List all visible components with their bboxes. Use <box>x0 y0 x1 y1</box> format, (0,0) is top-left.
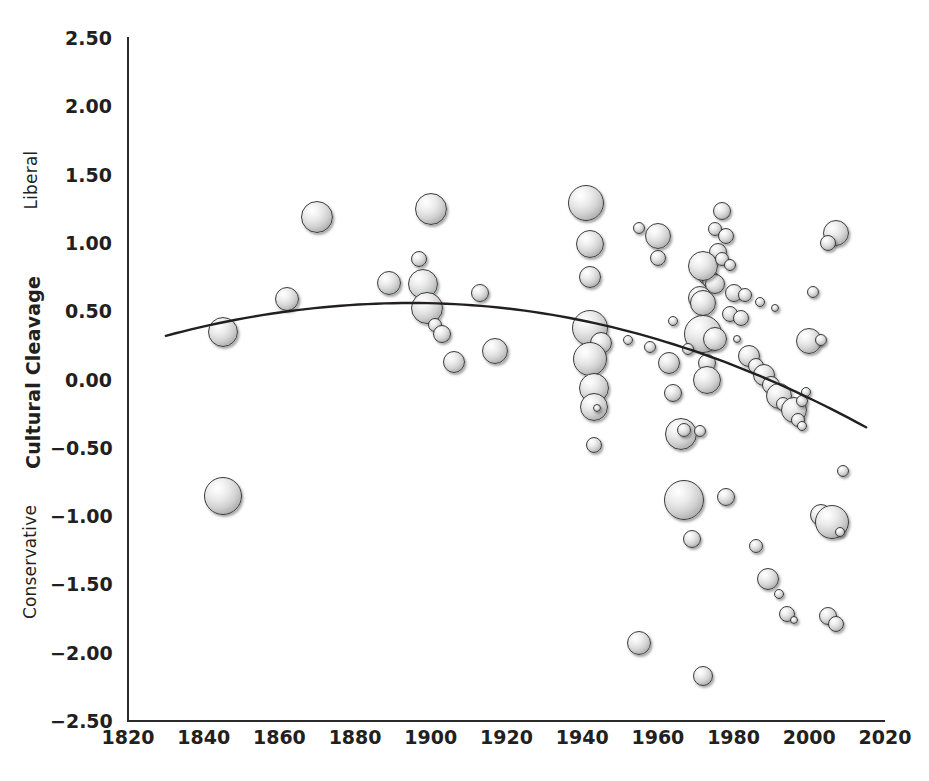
x-tick-label: 1880 <box>320 726 390 748</box>
x-tick-label: 1860 <box>244 726 314 748</box>
y-tick-label: 1.50 <box>50 164 112 186</box>
data-point <box>644 341 656 353</box>
data-point <box>573 342 607 376</box>
y-tick-label: −2.00 <box>50 642 112 664</box>
data-point <box>790 616 798 624</box>
x-tick-label: 1980 <box>699 726 769 748</box>
y-tick-label: 1.00 <box>50 232 112 254</box>
x-tick-label: 1940 <box>547 726 617 748</box>
data-point <box>815 334 827 346</box>
data-point <box>801 387 811 397</box>
data-point <box>690 290 716 316</box>
x-tick-label: 2020 <box>850 726 920 748</box>
x-tick-label: 2000 <box>774 726 844 748</box>
data-point <box>683 530 701 548</box>
data-point <box>724 259 736 271</box>
data-point <box>664 480 704 520</box>
data-point <box>627 631 651 655</box>
data-point <box>713 202 731 220</box>
x-tick-label: 1900 <box>396 726 466 748</box>
x-tick-label: 1920 <box>472 726 542 748</box>
data-point <box>774 589 784 599</box>
data-point <box>828 616 844 632</box>
data-point <box>738 288 752 302</box>
data-point <box>694 425 706 437</box>
data-point <box>576 230 604 258</box>
x-axis-line <box>127 720 885 722</box>
y-tick-label: 0.50 <box>50 300 112 322</box>
data-point <box>835 527 845 537</box>
data-point <box>733 310 749 326</box>
data-point <box>733 335 741 343</box>
y-axis-line <box>127 37 129 721</box>
x-tick-label: 1840 <box>169 726 239 748</box>
y-tick-label: 2.50 <box>50 27 112 49</box>
data-point <box>807 286 819 298</box>
data-point <box>204 477 242 515</box>
data-point <box>837 465 849 477</box>
data-point <box>443 351 465 373</box>
data-point <box>693 666 713 686</box>
x-tick-label: 1960 <box>623 726 693 748</box>
data-point <box>668 316 678 326</box>
data-point <box>796 395 808 407</box>
data-point <box>411 251 427 267</box>
data-point <box>664 384 682 402</box>
data-point <box>433 325 451 343</box>
y-tick-label: −0.50 <box>50 437 112 459</box>
data-point <box>820 235 836 251</box>
data-point <box>586 437 602 453</box>
data-point <box>482 338 508 364</box>
data-point <box>658 352 680 374</box>
plot-area: 2.502.001.501.000.500.00−0.50−1.00−1.50−… <box>0 0 929 781</box>
data-point <box>568 185 604 221</box>
data-point <box>301 201 333 233</box>
data-point <box>703 327 727 351</box>
y-tick-label: 0.00 <box>50 369 112 391</box>
y-tick-label: 2.00 <box>50 95 112 117</box>
data-point <box>633 222 645 234</box>
y-tick-label: −1.50 <box>50 573 112 595</box>
data-point <box>757 568 779 590</box>
bubble-chart: Liberal Cultural Cleavage Conservative 2… <box>0 0 929 781</box>
data-point <box>415 193 447 225</box>
data-point <box>718 228 734 244</box>
data-point <box>579 266 601 288</box>
data-point <box>717 488 735 506</box>
data-point <box>275 287 299 311</box>
data-point <box>650 250 666 266</box>
x-tick-label: 1820 <box>93 726 163 748</box>
data-point <box>645 223 671 249</box>
data-point <box>471 284 489 302</box>
data-point <box>693 366 721 394</box>
data-point <box>797 421 807 431</box>
data-point <box>771 304 779 312</box>
data-point <box>749 539 763 553</box>
data-point <box>755 297 765 307</box>
data-point <box>208 317 238 347</box>
data-point <box>682 343 694 355</box>
data-point <box>623 335 633 345</box>
data-point <box>377 271 401 295</box>
y-tick-label: −1.00 <box>50 505 112 527</box>
